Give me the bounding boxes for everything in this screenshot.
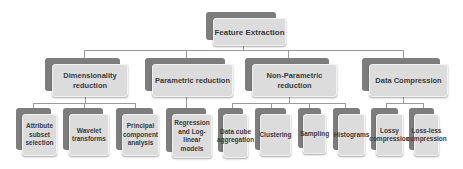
- connector-to-dimensionality: [84, 50, 85, 58]
- node-dimensionality-reduction: Dimensionality reduction: [45, 58, 128, 97]
- connector-param-down: [186, 97, 187, 108]
- node-label: Clustering: [260, 114, 291, 156]
- node-label: Regression and Log-linear models: [172, 114, 212, 158]
- node-data-compression: Data Compression: [362, 58, 448, 97]
- node-data-cube-aggregation: Data cube aggregation: [218, 108, 248, 158]
- node-label: Wavelet transforms: [69, 114, 109, 156]
- connector-level1-bar: [84, 50, 403, 51]
- node-parametric-reduction: Parametric reduction: [145, 58, 233, 97]
- node-label: Histograms: [338, 114, 365, 156]
- connector-to-parametric: [186, 50, 187, 58]
- node-label: Loss-less compression: [414, 114, 439, 156]
- node-label: Lossy compression: [376, 114, 403, 156]
- node-label: Dimensionality reduction: [52, 64, 128, 97]
- node-histograms: Histograms: [333, 108, 365, 156]
- node-wavelet-transforms: Wavelet transforms: [63, 108, 109, 156]
- node-sampling: Sampling: [298, 108, 326, 154]
- node-lossless-compression: Loss-less compression: [409, 108, 439, 156]
- connector-to-compression: [403, 50, 404, 58]
- node-label: Data cube aggregation: [223, 114, 248, 158]
- node-label: Non-Parametric reduction: [252, 64, 337, 97]
- node-label: Attribute subset selection: [22, 114, 57, 156]
- node-feature-extraction: Feature Extraction: [206, 12, 286, 46]
- node-clustering: Clustering: [255, 108, 291, 156]
- connector-nonparam-bar: [232, 103, 345, 104]
- connector-to-nonparametric: [288, 50, 289, 58]
- node-label: Data Compression: [369, 64, 448, 97]
- node-label: Feature Extraction: [213, 18, 286, 46]
- node-label: Sampling: [303, 114, 326, 154]
- node-label: Parametric reduction: [152, 64, 233, 97]
- node-regression-log-linear-models: Regression and Log-linear models: [166, 108, 212, 158]
- node-label: Principal component analysis: [122, 114, 159, 156]
- node-lossy-compression: Lossy compression: [371, 108, 403, 156]
- node-attribute-subset-selection: Attribute subset selection: [16, 108, 57, 156]
- node-principal-component-analysis: Principal component analysis: [116, 108, 159, 156]
- connector-comp-bar: [386, 103, 423, 104]
- node-non-parametric-reduction: Non-Parametric reduction: [245, 58, 337, 97]
